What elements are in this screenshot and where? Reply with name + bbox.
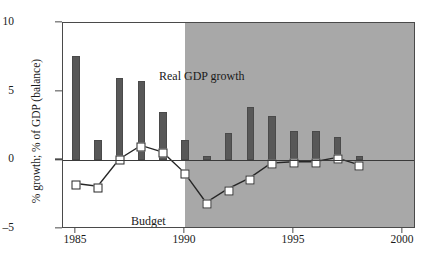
gdp-growth-annotation: Real GDP growth — [159, 69, 245, 84]
data-point-marker — [355, 161, 364, 170]
plot-area: Real GDP growth Budget balance — [62, 22, 415, 228]
x-tick-label: 1990 — [173, 234, 196, 246]
budget-annotation-line1: Budget — [131, 215, 168, 228]
data-point-marker — [202, 200, 211, 209]
y-tick-mark — [55, 90, 62, 91]
zero-baseline — [63, 160, 414, 161]
y-tick-label: 5 — [0, 85, 14, 97]
x-tick-label: 1995 — [281, 234, 304, 246]
x-tick-mark — [401, 228, 402, 233]
y-tick-label: 0 — [0, 154, 14, 166]
data-point-marker — [137, 142, 146, 151]
data-point-marker — [159, 149, 168, 158]
chart-figure: % growth; % of GDP (balance) 1050–5 1985… — [0, 0, 432, 269]
y-tick-label: 10 — [0, 16, 14, 28]
data-point-marker — [224, 186, 233, 195]
y-tick-mark — [55, 21, 62, 22]
data-point-marker — [181, 170, 190, 179]
y-tick-mark — [55, 227, 62, 228]
budget-balance-annotation: Budget balance — [131, 215, 168, 228]
y-tick-mark — [55, 159, 62, 160]
data-point-marker — [93, 183, 102, 192]
data-point-marker — [72, 181, 81, 190]
data-point-marker — [246, 175, 255, 184]
x-tick-mark — [74, 228, 75, 233]
y-axis-title: % growth; % of GDP (balance) — [30, 31, 42, 231]
data-point-marker — [333, 154, 342, 163]
x-tick-label: 2000 — [390, 234, 413, 246]
x-tick-label: 1985 — [64, 234, 87, 246]
x-tick-mark — [292, 228, 293, 233]
x-tick-mark — [183, 228, 184, 233]
budget-balance-line — [63, 23, 414, 227]
y-tick-label: –5 — [0, 222, 14, 234]
